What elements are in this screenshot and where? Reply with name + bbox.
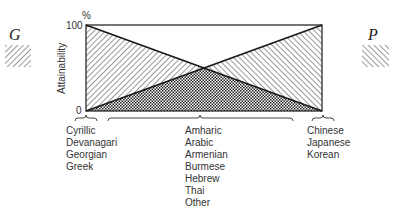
script-name: Thai <box>185 185 228 197</box>
script-name: Hebrew <box>185 173 228 185</box>
group-left-list: Cyrillic Devanagari Georgian Greek <box>66 125 117 173</box>
script-name: Other <box>185 197 228 208</box>
legend-letter-p: P <box>368 26 378 44</box>
y-axis-unit: % <box>82 10 91 21</box>
y-tick-0: 0 <box>76 105 82 116</box>
script-name: Japanese <box>307 137 350 149</box>
script-name: Amharic <box>185 125 228 137</box>
brace-middle <box>108 115 293 121</box>
script-name: Korean <box>307 149 350 161</box>
y-axis-label: Attainability <box>56 43 67 94</box>
brace-right <box>312 115 334 121</box>
script-name: Georgian <box>66 149 117 161</box>
group-right-list: Chinese Japanese Korean <box>307 125 350 161</box>
legend-swatch-g <box>5 45 31 67</box>
script-name: Burmese <box>185 161 228 173</box>
group-middle-list: Amharic Arabic Armenian Burmese Hebrew T… <box>185 125 228 208</box>
legend-letter-g: G <box>9 26 21 44</box>
script-name: Armenian <box>185 149 228 161</box>
script-name: Chinese <box>307 125 350 137</box>
legend-swatch-p <box>362 45 389 67</box>
script-name: Arabic <box>185 137 228 149</box>
y-tick-100: 100 <box>66 20 83 31</box>
script-name: Cyrillic <box>66 125 117 137</box>
script-name: Devanagari <box>66 137 117 149</box>
script-name: Greek <box>66 161 117 173</box>
